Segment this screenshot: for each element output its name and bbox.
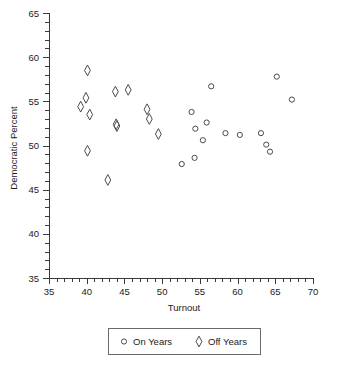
data-point-circle [192,155,197,160]
scatter-plot-figure: 3540455055606570 35404550556065 Turnout … [0,0,337,367]
data-point-diamond [125,84,131,95]
data-point-diamond [83,92,89,103]
data-point-circle [204,120,209,125]
x-tick-label: 35 [44,286,55,297]
y-tick-label: 40 [28,228,39,239]
data-point-circle [264,142,269,147]
y-tick-labels: 35404550556065 [28,8,39,284]
y-tick-label: 35 [28,273,39,284]
x-tick-labels: 3540455055606570 [44,286,319,297]
y-tick-label: 60 [28,52,39,63]
y-tick-label: 45 [28,184,39,195]
legend-label: On Years [133,336,172,347]
data-point-circle [200,138,205,143]
axes [43,13,314,284]
series-off-years [78,65,161,185]
x-tick-label: 55 [195,286,206,297]
data-points [78,65,295,185]
legend-label: Off Years [208,336,247,347]
x-axis-title: Turnout [168,302,201,313]
data-point-circle [193,126,198,131]
chart-canvas: 3540455055606570 35404550556065 Turnout … [0,0,337,367]
x-tick-label: 65 [270,286,281,297]
legend: On YearsOff Years [109,329,261,355]
x-tick-label: 50 [157,286,168,297]
data-point-circle [289,97,294,102]
data-point-circle [189,109,194,114]
x-tick-label: 40 [81,286,92,297]
data-point-circle [223,131,228,136]
data-point-circle [258,131,263,136]
x-tick-label: 70 [308,286,319,297]
series-on-years [179,74,294,167]
data-point-diamond [85,65,91,76]
x-tick-label: 60 [232,286,243,297]
data-point-diamond [87,109,93,120]
x-tick-label: 45 [119,286,130,297]
data-point-diamond [155,129,161,140]
data-point-diamond [85,145,91,156]
y-axis-title: Democratic Percent [8,106,19,190]
data-point-diamond [78,101,84,112]
data-point-circle [179,161,184,166]
data-point-circle [237,132,242,137]
data-point-diamond [112,86,118,97]
data-point-diamond [105,175,111,186]
y-tick-label: 65 [28,8,39,19]
data-point-circle [274,74,279,79]
y-tick-label: 50 [28,140,39,151]
data-point-circle [209,84,214,89]
data-point-circle [267,149,272,154]
y-tick-label: 55 [28,96,39,107]
